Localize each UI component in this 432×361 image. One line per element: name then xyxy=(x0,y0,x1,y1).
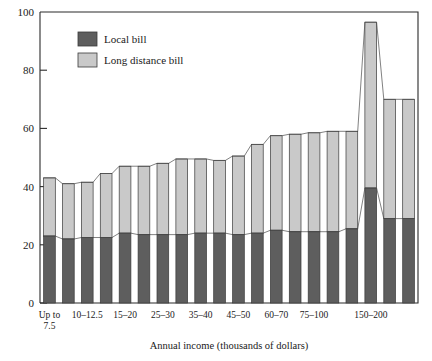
bar-segment-local xyxy=(289,232,301,303)
x-tick-label: 75–100 xyxy=(300,310,329,320)
x-tick-label: Up to xyxy=(39,310,61,320)
bar-segment-local xyxy=(138,235,150,303)
bar-segment-local xyxy=(327,232,339,303)
y-tick-label: 20 xyxy=(23,239,35,251)
y-axis-ticks: 020406080100 xyxy=(18,6,48,309)
bar-segment-local xyxy=(44,236,56,303)
bar-segment-local xyxy=(346,229,358,303)
bar-segment-local xyxy=(176,235,188,303)
bar-segment-long-distance xyxy=(81,182,93,237)
y-tick-label: 40 xyxy=(23,181,35,193)
bar-segment-long-distance xyxy=(365,22,377,188)
bar-segment-long-distance xyxy=(403,99,415,218)
bar-segment-local xyxy=(100,238,112,303)
bar-segment-long-distance xyxy=(157,163,169,234)
bar-segment-local xyxy=(308,232,320,303)
x-tick-label-line2: 7.5 xyxy=(44,321,56,331)
bar-segment-long-distance xyxy=(327,131,339,231)
bar-segment-local xyxy=(157,235,169,303)
x-tick-label: 35–40 xyxy=(189,310,213,320)
total-top-connector xyxy=(44,22,415,184)
chart-canvas: 020406080100 Up to7.510–12.515–2025–3035… xyxy=(0,0,432,361)
bar-segment-local xyxy=(81,238,93,303)
x-tick-label: 150–200 xyxy=(354,310,388,320)
bar-segment-long-distance xyxy=(44,178,56,236)
bar-segment-long-distance xyxy=(270,136,282,231)
bar-segment-local xyxy=(251,233,263,303)
bar-segment-long-distance xyxy=(138,166,150,234)
chart-legend: Local billLong distance bill xyxy=(78,32,183,67)
bar-segment-long-distance xyxy=(251,144,263,233)
bars-group xyxy=(44,22,415,303)
bar-segment-local xyxy=(233,235,245,303)
legend-swatch xyxy=(78,53,97,67)
y-tick-label: 80 xyxy=(23,64,35,76)
y-tick-label: 100 xyxy=(18,6,35,18)
x-tick-label: 10–12.5 xyxy=(72,310,103,320)
x-axis-tick-labels: Up to7.510–12.515–2025–3035–4045–5060–70… xyxy=(39,310,388,331)
x-tick-label: 25–30 xyxy=(151,310,175,320)
bar-segment-local xyxy=(62,239,74,303)
bar-segment-long-distance xyxy=(346,131,358,228)
bar-segment-long-distance xyxy=(214,160,226,233)
bar-segment-long-distance xyxy=(233,156,245,235)
x-tick-label: 45–50 xyxy=(227,310,251,320)
bar-segment-local xyxy=(119,233,131,303)
x-tick-label: 15–20 xyxy=(113,310,137,320)
bar-segment-local xyxy=(270,230,282,303)
legend-label: Local bill xyxy=(104,33,146,45)
bar-segment-local xyxy=(214,233,226,303)
legend-label: Long distance bill xyxy=(104,54,183,66)
bar-segment-long-distance xyxy=(62,184,74,239)
x-tick-label: 60–70 xyxy=(264,310,288,320)
stacked-bar-chart: 020406080100 Up to7.510–12.515–2025–3035… xyxy=(0,0,432,361)
x-axis-title: Annual income (thousands of dollars) xyxy=(150,340,309,352)
bar-top-connectors xyxy=(44,22,415,239)
bar-segment-local xyxy=(195,233,207,303)
bar-segment-long-distance xyxy=(176,159,188,235)
bar-segment-local xyxy=(365,188,377,303)
bar-segment-long-distance xyxy=(195,159,207,233)
bar-segment-long-distance xyxy=(384,99,396,218)
bar-segment-long-distance xyxy=(119,166,131,233)
bar-segment-local xyxy=(403,219,415,303)
y-tick-label: 60 xyxy=(23,122,35,134)
bar-segment-long-distance xyxy=(289,134,301,231)
bar-segment-long-distance xyxy=(308,133,320,232)
bar-segment-local xyxy=(384,219,396,303)
bar-segment-long-distance xyxy=(100,174,112,238)
local-top-connector xyxy=(44,188,415,239)
y-tick-label: 0 xyxy=(29,297,35,309)
legend-swatch xyxy=(78,32,97,46)
